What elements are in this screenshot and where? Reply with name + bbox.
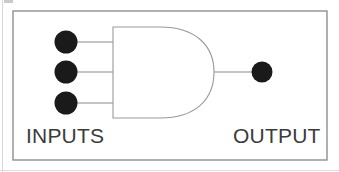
output-terminal: [252, 62, 273, 83]
and-gate-body: [113, 27, 214, 118]
diagram-canvas: INPUTS OUTPUT: [0, 0, 339, 172]
input-terminal-2: [55, 61, 78, 84]
input-terminal-1: [55, 31, 78, 54]
inputs-label: INPUTS: [26, 125, 104, 146]
input-terminal-3: [55, 92, 78, 115]
output-label: OUTPUT: [233, 125, 321, 146]
